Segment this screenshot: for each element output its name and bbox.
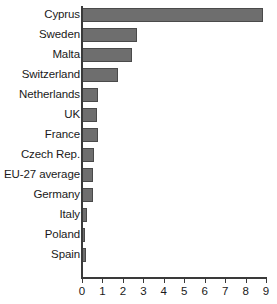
bar-track: [82, 128, 277, 142]
x-tick-label: 8: [236, 285, 256, 297]
category-label: Italy: [59, 206, 80, 226]
category-label: UK: [64, 106, 80, 126]
x-tick-mark: [266, 279, 267, 283]
bar-track: [82, 148, 277, 162]
bar-track: [82, 208, 277, 222]
bar: [82, 148, 94, 162]
bar: [82, 28, 137, 42]
x-tick-mark: [82, 279, 83, 283]
category-label: Czech Rep.: [21, 146, 80, 166]
x-tick-label: 5: [174, 285, 194, 297]
bar: [82, 48, 132, 62]
bar: [82, 168, 93, 182]
x-tick-mark: [102, 279, 103, 283]
bar-row: Italy: [0, 206, 277, 226]
category-label: Poland: [45, 226, 80, 246]
bar-row: Malta: [0, 46, 277, 66]
x-tick-label: 6: [195, 285, 215, 297]
x-tick-label: 1: [92, 285, 112, 297]
x-tick-mark: [123, 279, 124, 283]
bar-row: Spain: [0, 246, 277, 266]
category-axis-line: [81, 6, 83, 278]
category-label: Cyprus: [44, 6, 80, 26]
category-label: EU-27 average: [4, 166, 80, 186]
bar: [82, 108, 97, 122]
category-label: Netherlands: [19, 86, 80, 106]
bar-row: EU-27 average: [0, 166, 277, 186]
bar-track: [82, 28, 277, 42]
bar: [82, 8, 263, 22]
x-tick-label: 9: [256, 285, 276, 297]
bar-track: [82, 168, 277, 182]
bar-row: Netherlands: [0, 86, 277, 106]
bar-chart: CyprusSwedenMaltaSwitzerlandNetherlandsU…: [0, 0, 277, 304]
bar: [82, 128, 98, 142]
bar-track: [82, 48, 277, 62]
x-tick-label: 3: [133, 285, 153, 297]
x-tick-mark: [225, 279, 226, 283]
bar: [82, 68, 118, 82]
x-tick-label: 2: [113, 285, 133, 297]
bar-track: [82, 248, 277, 262]
bar-row: UK: [0, 106, 277, 126]
bar: [82, 188, 93, 202]
x-tick-mark: [246, 279, 247, 283]
bar-rows: CyprusSwedenMaltaSwitzerlandNetherlandsU…: [0, 6, 277, 266]
category-label: Switzerland: [22, 66, 80, 86]
value-axis-line: [81, 277, 267, 279]
x-tick-mark: [184, 279, 185, 283]
category-label: Sweden: [39, 26, 80, 46]
category-label: Germany: [33, 186, 80, 206]
bar-row: Sweden: [0, 26, 277, 46]
x-tick-label: 0: [72, 285, 92, 297]
category-label: Spain: [51, 246, 80, 266]
category-label: France: [45, 126, 80, 146]
x-tick-mark: [205, 279, 206, 283]
bar-row: Germany: [0, 186, 277, 206]
category-label: Malta: [52, 46, 80, 66]
bar-row: Poland: [0, 226, 277, 246]
x-tick-mark: [164, 279, 165, 283]
x-tick-mark: [143, 279, 144, 283]
plot-area: CyprusSwedenMaltaSwitzerlandNetherlandsU…: [0, 0, 277, 304]
bar-row: France: [0, 126, 277, 146]
bar-row: Switzerland: [0, 66, 277, 86]
bar-track: [82, 228, 277, 242]
bar-track: [82, 108, 277, 122]
bar-track: [82, 188, 277, 202]
x-tick-label: 7: [215, 285, 235, 297]
x-tick-label: 4: [154, 285, 174, 297]
bar-row: Cyprus: [0, 6, 277, 26]
bar-track: [82, 8, 277, 22]
bar: [82, 88, 98, 102]
bar-track: [82, 88, 277, 102]
bar-row: Czech Rep.: [0, 146, 277, 166]
bar-track: [82, 68, 277, 82]
